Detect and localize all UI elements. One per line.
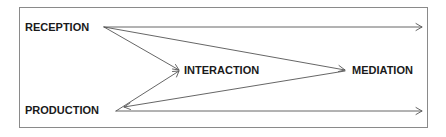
node-production: PRODUCTION	[25, 104, 99, 116]
arrow-production-interaction	[116, 71, 179, 111]
node-reception: RECEPTION	[25, 21, 89, 33]
node-interaction: INTERACTION	[184, 64, 259, 76]
arrowhead-icon	[339, 66, 346, 72]
node-mediation: MEDIATION	[352, 64, 413, 76]
arrow-mediation-production	[124, 71, 345, 107]
